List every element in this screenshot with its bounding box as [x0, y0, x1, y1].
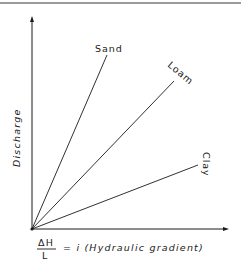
loam-line: [32, 81, 174, 229]
loam-label: Loam: [166, 59, 196, 87]
y-axis-label: Discharge: [11, 108, 22, 167]
sand-line: [32, 55, 107, 229]
x-label-rest: = i (Hydraulic gradient): [63, 242, 204, 253]
clay-label: Clay: [201, 152, 212, 177]
x-axis-label: ΔH L = i (Hydraulic gradient): [37, 237, 204, 261]
sand-label: Sand: [95, 43, 123, 54]
clay-line: [32, 165, 198, 229]
x-axis: [32, 227, 229, 231]
x-label-denominator: L: [42, 250, 49, 261]
darcy-diagram: Sand Loam Clay Discharge ΔH L = i (Hydra…: [0, 0, 241, 269]
x-label-numerator: ΔH: [38, 237, 54, 248]
x-axis-arrow-icon: [223, 227, 229, 231]
y-axis-arrow-icon: [30, 16, 34, 22]
y-axis: [30, 16, 34, 229]
